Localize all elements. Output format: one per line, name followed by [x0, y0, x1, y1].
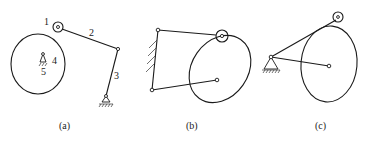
roller-pin	[57, 26, 60, 29]
label-4: 4	[52, 55, 57, 66]
label-1: 1	[44, 16, 49, 27]
caption-b: (b)	[186, 120, 198, 132]
pivot	[269, 55, 273, 59]
joint-bottom	[150, 88, 154, 92]
rocker-link	[152, 30, 158, 90]
crank-link	[152, 80, 217, 90]
label-5: 5	[41, 66, 46, 77]
roller-pin	[220, 34, 223, 37]
figure-c: (c)	[262, 12, 360, 132]
caption-a: (a)	[59, 120, 70, 132]
figure-b: (b)	[146, 23, 264, 132]
cam-center	[327, 64, 331, 68]
label-2: 2	[89, 27, 94, 38]
label-3: 3	[114, 70, 119, 81]
roller-pin	[337, 16, 340, 19]
frame-link	[271, 57, 329, 66]
cam-mechanism-diagrams: 1 2 3 4 5 (a) (b)	[0, 0, 373, 142]
cam-pivot	[42, 53, 45, 56]
joint	[116, 47, 119, 50]
ground-pin	[105, 95, 108, 98]
ground-hatch	[263, 70, 280, 73]
coupler-link	[158, 30, 216, 35]
figure-a: 1 2 3 4 5 (a)	[11, 16, 120, 132]
caption-c: (c)	[315, 120, 326, 132]
joint-top	[156, 28, 160, 32]
cam-center	[215, 78, 219, 82]
cam-disc	[176, 23, 263, 114]
ground-hatch	[99, 104, 113, 107]
